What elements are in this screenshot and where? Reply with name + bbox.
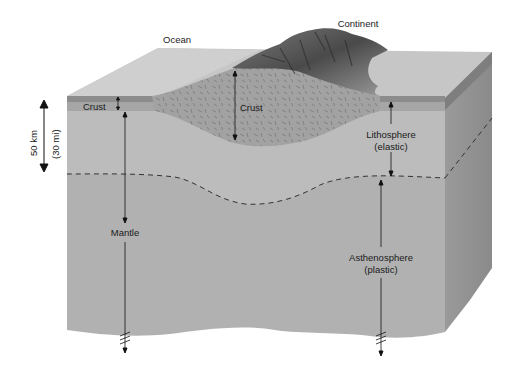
oceanic-crust-label: Crust [83,101,106,112]
continental-crust-label: Crust [240,102,263,113]
continent-label: Continent [338,18,379,29]
lithosphere-note: (elastic) [374,141,407,152]
mantle-label: Mantle [111,227,140,238]
ocean-crust-dark [67,96,157,102]
ocean-label: Ocean [163,34,191,45]
ocean-crust [67,102,157,111]
scale-mi-label: (30 mi) [50,129,61,159]
asthenosphere-label: Asthenosphere [349,252,413,263]
scale-km-label: 50 km [28,130,39,156]
asthenosphere-note: (plastic) [364,264,397,275]
right-crust-dark [380,96,445,102]
block-diagram-graphic [0,0,515,384]
scale-bar-arrow [40,100,48,172]
earth-layers-diagram: Ocean Continent Crust Crust Lithosphere … [0,0,515,384]
lithosphere-label: Lithosphere [366,129,416,140]
